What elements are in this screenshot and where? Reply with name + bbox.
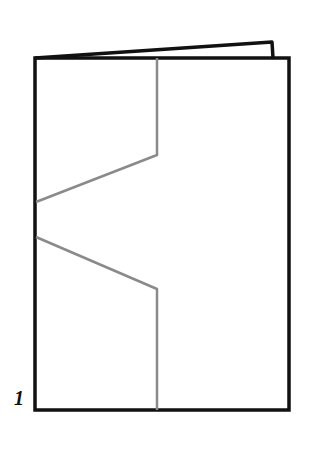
fold-line-lower <box>36 237 157 410</box>
fold-line <box>36 58 157 202</box>
folded-card-diagram <box>0 0 313 453</box>
front-card-outline <box>35 58 289 410</box>
figure-number-label: 1 <box>14 388 24 408</box>
back-flap-edge <box>35 42 273 58</box>
